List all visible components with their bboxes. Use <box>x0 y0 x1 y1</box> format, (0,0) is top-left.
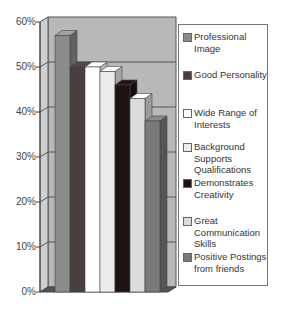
legend-swatch <box>183 253 192 262</box>
bar-6 <box>145 116 167 292</box>
legend-swatch <box>183 71 192 80</box>
legend-swatch <box>183 109 192 118</box>
y-tick-60: 60% <box>0 16 36 27</box>
bar-chart: 60% 50% 40% 30% 20% 10% 0% Professional … <box>0 0 281 311</box>
y-axis <box>36 22 40 292</box>
y-tick-30: 30% <box>0 151 36 162</box>
y-tick-20: 20% <box>0 196 36 207</box>
legend: Professional Image Good Personality Wide… <box>178 24 268 286</box>
legend-swatch <box>183 217 192 226</box>
legend-swatch <box>183 33 192 42</box>
y-tick-0: 0% <box>0 286 36 297</box>
legend-swatch <box>183 143 192 152</box>
y-tick-10: 10% <box>0 241 36 252</box>
y-tick-40: 40% <box>0 106 36 117</box>
y-tick-50: 50% <box>0 61 36 72</box>
legend-swatch <box>183 179 192 188</box>
